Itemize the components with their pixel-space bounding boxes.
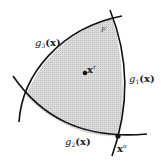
point-superscript: o [123,142,127,149]
feasible-region [26,18,123,136]
constraint-label-g2: g2(x) [65,137,91,148]
constraint-arg: (x) [139,73,154,84]
feasible-region-diagram: F g3(x) g1(x) g2(x) xr xo [0,0,161,167]
constraint-arg: (x) [45,37,60,48]
interior-point-label: xr [87,64,96,75]
constraint-arg: (x) [75,136,90,147]
point-superscript: r [93,63,96,70]
region-label: F [101,27,106,34]
vertex-point-label: xo [117,143,127,154]
constraint-label-g1: g1(x) [129,74,155,85]
constraint-label-g3: g3(x) [35,38,61,49]
vertex-point [115,133,120,138]
